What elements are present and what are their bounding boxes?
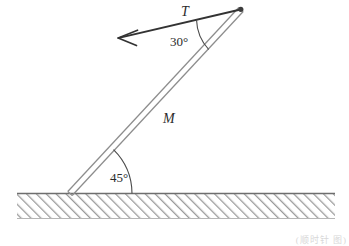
angle-label-30: 30° <box>170 34 188 49</box>
pivot-point-dot <box>238 7 243 12</box>
ground-surface <box>17 194 335 219</box>
figure-caption: (顺时针 图) <box>296 233 347 246</box>
tension-label: T <box>181 4 190 19</box>
physics-diagram: 45° 30° T M <box>0 0 349 246</box>
mass-label: M <box>162 111 176 126</box>
angle-label-45: 45° <box>110 170 128 185</box>
ground-hatch-fill <box>17 194 335 218</box>
